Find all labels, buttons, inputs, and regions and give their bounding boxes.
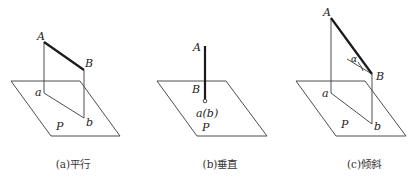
label-a: a — [322, 87, 329, 100]
label-B: B — [191, 83, 200, 96]
projection-diagram: A B a b P (a)平行 A B a(b) P (b)垂直 A B α a… — [0, 0, 416, 183]
label-a: a — [35, 86, 42, 99]
label-P: P — [55, 120, 64, 133]
label-alpha: α — [351, 54, 357, 64]
caption-parallel: (a)平行 — [56, 158, 91, 170]
caption-perpendicular: (b)垂直 — [203, 158, 239, 170]
label-A: A — [36, 30, 45, 43]
plane-p — [11, 81, 120, 136]
label-A: A — [192, 41, 201, 54]
panel-inclined: A B α a b P (c)倾斜 — [296, 6, 406, 170]
segment-AB — [331, 18, 372, 74]
panel-perpendicular: A B a(b) P (b)垂直 — [157, 41, 267, 170]
label-P: P — [340, 118, 349, 131]
label-ab: a(b) — [196, 107, 218, 120]
segment-AB — [44, 42, 84, 70]
projection-ab — [44, 93, 84, 118]
label-P: P — [201, 121, 210, 134]
label-b: b — [374, 120, 381, 133]
point-ab — [203, 99, 207, 103]
label-B: B — [375, 70, 384, 83]
label-b: b — [86, 116, 93, 129]
caption-inclined: (c)倾斜 — [347, 158, 382, 170]
projection-ab — [331, 93, 372, 124]
panel-parallel: A B a b P (a)平行 — [11, 30, 120, 170]
label-B: B — [84, 57, 93, 70]
label-A: A — [322, 6, 331, 19]
